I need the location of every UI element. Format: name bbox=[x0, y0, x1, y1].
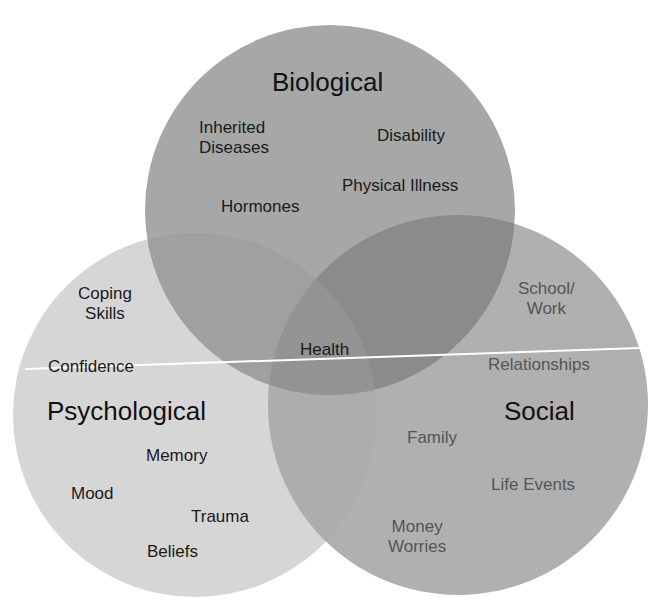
label-confidence: Confidence bbox=[48, 357, 134, 377]
label-work: Work bbox=[518, 299, 575, 319]
label-family: Family bbox=[407, 428, 457, 448]
label-skills: Skills bbox=[78, 304, 132, 324]
psychological-title: Psychological bbox=[47, 397, 206, 427]
label-money: Money bbox=[388, 517, 446, 537]
label-health: Health bbox=[300, 340, 349, 360]
label-beliefs: Beliefs bbox=[147, 542, 198, 562]
label-coping: Coping bbox=[78, 284, 132, 304]
label-mood: Mood bbox=[71, 484, 114, 504]
label-life-events: Life Events bbox=[491, 475, 575, 495]
label-school: School/ bbox=[518, 279, 575, 299]
label-inherited-diseases: Inherited Diseases bbox=[199, 118, 269, 157]
label-diseases: Diseases bbox=[199, 138, 269, 158]
biological-title: Biological bbox=[272, 68, 383, 98]
label-worries: Worries bbox=[388, 537, 446, 557]
label-money-worries: Money Worries bbox=[388, 517, 446, 556]
label-coping-skills: Coping Skills bbox=[78, 284, 132, 323]
label-physical-illness: Physical Illness bbox=[342, 176, 458, 196]
label-hormones: Hormones bbox=[221, 197, 299, 217]
label-school-work: School/ Work bbox=[518, 279, 575, 318]
label-inherited: Inherited bbox=[199, 118, 269, 138]
label-trauma: Trauma bbox=[191, 507, 249, 527]
label-relationships: Relationships bbox=[488, 355, 590, 375]
label-disability: Disability bbox=[377, 126, 445, 146]
label-memory: Memory bbox=[146, 446, 207, 466]
social-title: Social bbox=[504, 397, 575, 427]
